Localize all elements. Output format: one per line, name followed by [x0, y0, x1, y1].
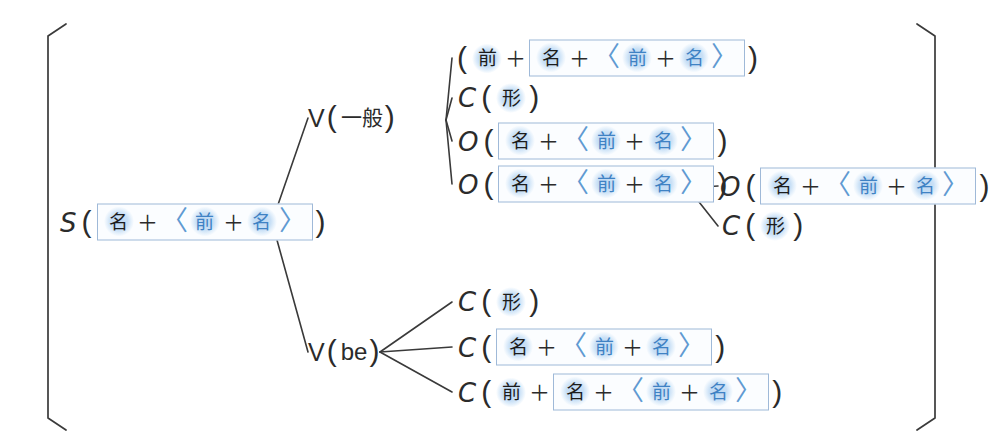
token-mei: 名: [703, 377, 733, 407]
node-label-c: C: [458, 289, 476, 315]
angle-close: 〉: [279, 207, 306, 234]
token-kei: 形: [496, 287, 526, 317]
plus-sign: ＋: [569, 47, 590, 68]
node-be-child-1: C ( 形 ): [458, 287, 541, 317]
node-root-s: S ( 名 ＋ 〈 前 ＋ 名 〉 ): [60, 204, 328, 241]
plus-sign: ＋: [538, 130, 559, 151]
token-mei: 名: [910, 171, 940, 201]
plus-sign: ＋: [622, 336, 643, 357]
angle-open: 〈: [824, 171, 851, 198]
token-mei: 名: [648, 126, 678, 156]
token-mei: 名: [646, 332, 676, 362]
plus-sign: ＋: [886, 175, 907, 196]
angle-open: 〈: [593, 43, 620, 70]
node-label-c: C: [722, 213, 740, 239]
token-zen: 前: [622, 43, 652, 73]
token-zen: 前: [496, 377, 526, 407]
node-be-child-2: C ( 名 ＋ 〈 前 ＋ 名 〉 ): [458, 329, 727, 366]
token-kei: 形: [760, 211, 790, 241]
boxed-group: 名 ＋ 〈 前 ＋ 名 〉: [760, 168, 976, 205]
paren-close: ): [979, 170, 989, 200]
boxed-group: 名 ＋ 〈 前 ＋ 名 〉: [529, 40, 745, 77]
node-child-2: C ( 形 ): [458, 83, 541, 113]
token-mei: 名: [536, 43, 566, 73]
node-label-o: O: [720, 173, 740, 199]
paren-close: ): [385, 102, 395, 132]
paren-open: (: [481, 331, 491, 361]
paren-open: (: [457, 42, 467, 72]
plus-sign: ＋: [593, 381, 614, 402]
v-ippan-inner: 一般: [341, 108, 383, 129]
plus-sign: ＋: [655, 47, 676, 68]
token-zen: 前: [591, 126, 621, 156]
boxed-group: 名 ＋ 〈 前 ＋ 名 〉: [498, 166, 714, 203]
paren-close: ): [529, 286, 539, 316]
boxed-group: 名 ＋ 〈 前 ＋ 名 〉: [496, 329, 712, 366]
plus-sign: ＋: [223, 211, 244, 232]
angle-close: 〉: [680, 169, 707, 196]
node-child-4: O ( 名 ＋ 〈 前 ＋ 名 〉 ): [458, 166, 729, 203]
node-v-be: V ( be ): [308, 337, 381, 367]
node-v-ippan: V ( 一般 ): [308, 103, 397, 133]
node-label-o: O: [458, 171, 478, 197]
paren-open: (: [483, 125, 493, 155]
token-mei: 名: [247, 207, 277, 237]
token-mei: 名: [505, 169, 535, 199]
paren-open: (: [327, 102, 337, 132]
boxed-group: 名 ＋ 〈 前 ＋ 名 〉: [553, 374, 769, 411]
token-zen: 前: [589, 332, 619, 362]
paren-open: (: [745, 210, 755, 240]
paren-open: (: [82, 206, 92, 236]
plus-sign: ＋: [624, 173, 645, 194]
angle-close: 〉: [680, 126, 707, 153]
plus-sign: ＋: [624, 130, 645, 151]
paren-close: ): [748, 42, 758, 72]
angle-open: 〈: [560, 332, 587, 359]
paren-open: (: [481, 82, 491, 112]
token-zen: 前: [646, 377, 676, 407]
angle-open: 〈: [562, 169, 589, 196]
paren-close: ): [715, 331, 725, 361]
token-zen: 前: [591, 169, 621, 199]
token-zen: 前: [190, 207, 220, 237]
paren-close: ): [316, 206, 326, 236]
node-label-c: C: [458, 334, 476, 360]
token-mei: 名: [560, 377, 590, 407]
plus-sign: ＋: [137, 211, 158, 232]
node-label-c: C: [458, 379, 476, 405]
v-be-inner: be: [341, 340, 368, 364]
plus-sign: ＋: [800, 175, 821, 196]
plus-sign: ＋: [505, 48, 526, 69]
paren-open: (: [745, 170, 755, 200]
node-child-1: ( 前 ＋ 名 ＋ 〈 前 ＋ 名 〉 ): [455, 40, 760, 77]
boxed-group: 名 ＋ 〈 前 ＋ 名 〉: [498, 123, 714, 160]
node-label-v: V: [308, 106, 325, 131]
plus-sign: ＋: [536, 336, 557, 357]
node-be-child-3: C ( 前 ＋ 名 ＋ 〈 前 ＋ 名 〉 ): [458, 374, 784, 411]
node-child-3: O ( 名 ＋ 〈 前 ＋ 名 〉 ): [458, 123, 729, 160]
angle-open: 〈: [617, 377, 644, 404]
token-zen: 前: [472, 43, 502, 73]
node-label-o: O: [458, 128, 478, 154]
paren-close: ): [369, 336, 379, 366]
plus-sign: ＋: [679, 381, 700, 402]
token-mei: 名: [767, 171, 797, 201]
token-kei: 形: [496, 83, 526, 113]
node-subchild-1: O ( 名 ＋ 〈 前 ＋ 名 〉 ): [720, 168, 991, 205]
node-label-v: V: [308, 340, 325, 365]
boxed-group: 名 ＋ 〈 前 ＋ 名 〉: [97, 204, 313, 241]
paren-open: (: [483, 168, 493, 198]
paren-open: (: [327, 336, 337, 366]
node-label-c: C: [458, 85, 476, 111]
angle-close: 〉: [942, 171, 969, 198]
angle-close: 〉: [678, 332, 705, 359]
paren-open: (: [481, 286, 491, 316]
token-mei: 名: [505, 126, 535, 156]
token-mei: 名: [503, 332, 533, 362]
plus-sign: ＋: [529, 382, 550, 403]
paren-close: ): [772, 376, 782, 406]
paren-close: ): [717, 125, 727, 155]
node-label-s: S: [60, 209, 77, 235]
token-mei: 名: [648, 169, 678, 199]
